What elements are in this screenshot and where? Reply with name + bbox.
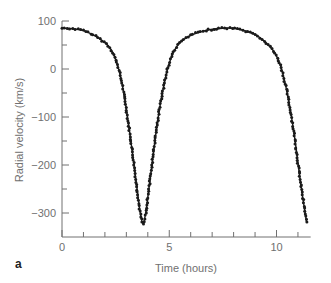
- data-point: [304, 215, 307, 218]
- data-point: [135, 185, 138, 188]
- data-point: [153, 139, 156, 142]
- data-point: [168, 61, 171, 64]
- y-axis-label: Radial velocity (km/s): [13, 78, 25, 183]
- data-point: [162, 87, 165, 90]
- data-point: [99, 37, 102, 40]
- data-point: [157, 116, 160, 119]
- data-point: [116, 66, 119, 69]
- data-point: [159, 106, 162, 109]
- data-point: [91, 33, 94, 36]
- data-point: [140, 217, 143, 220]
- y-tick-label: 100: [38, 15, 56, 27]
- radial-velocity-chart: 1000−100−200−3000510 Time (hours) Radial…: [0, 0, 331, 283]
- data-point: [282, 71, 285, 74]
- data-point: [152, 148, 155, 151]
- data-point: [217, 27, 220, 30]
- data-point: [105, 42, 108, 45]
- data-point: [291, 121, 294, 124]
- data-point: [187, 36, 190, 39]
- data-point: [150, 169, 153, 172]
- data-point: [165, 73, 168, 76]
- data-point: [305, 218, 308, 221]
- data-point: [194, 31, 197, 34]
- data-point: [233, 27, 236, 30]
- data-point: [114, 56, 117, 59]
- data-point: [296, 156, 299, 159]
- data-point: [290, 113, 293, 116]
- data-points: [61, 26, 309, 226]
- data-point: [276, 57, 279, 60]
- data-point: [282, 77, 285, 80]
- data-point: [121, 84, 124, 87]
- data-point: [63, 26, 66, 29]
- data-point: [139, 210, 142, 213]
- data-point: [79, 28, 82, 31]
- data-point: [202, 30, 205, 33]
- data-point: [168, 64, 171, 67]
- data-point: [129, 136, 132, 139]
- data-curve: [62, 28, 307, 224]
- data-point: [123, 97, 126, 100]
- data-point: [147, 192, 150, 195]
- data-point: [294, 142, 297, 145]
- data-point: [134, 172, 137, 175]
- data-point: [182, 38, 185, 41]
- data-point: [161, 95, 164, 98]
- data-point: [286, 92, 289, 95]
- data-point: [302, 198, 305, 201]
- data-point: [133, 175, 136, 178]
- data-point: [147, 188, 150, 191]
- data-point: [238, 28, 241, 31]
- data-point: [137, 199, 140, 202]
- data-point: [159, 102, 162, 105]
- data-point: [124, 103, 127, 106]
- data-point: [296, 153, 299, 156]
- data-point: [191, 33, 194, 36]
- data-point: [148, 177, 151, 180]
- data-point: [288, 106, 291, 109]
- data-point: [290, 116, 293, 119]
- y-tick-label: 0: [50, 63, 56, 75]
- data-point: [299, 185, 302, 188]
- data-point: [280, 66, 283, 69]
- data-point: [298, 175, 301, 178]
- data-point: [199, 30, 202, 33]
- data-point: [121, 88, 124, 91]
- data-point: [100, 40, 103, 43]
- data-point: [207, 28, 210, 31]
- data-point: [175, 46, 178, 49]
- data-point: [119, 74, 122, 77]
- data-point: [305, 221, 308, 224]
- data-point: [210, 29, 213, 32]
- data-point: [143, 220, 146, 223]
- data-point: [149, 182, 152, 185]
- data-point: [127, 122, 130, 125]
- data-point: [74, 28, 77, 31]
- data-point: [256, 35, 259, 38]
- data-point: [287, 101, 290, 104]
- data-point: [145, 207, 148, 210]
- data-point: [279, 63, 282, 66]
- data-point: [152, 153, 155, 156]
- data-point: [300, 188, 303, 191]
- data-point: [301, 191, 304, 194]
- data-point: [136, 190, 139, 193]
- data-point: [143, 217, 146, 220]
- data-point: [116, 63, 119, 66]
- data-point: [151, 161, 154, 164]
- data-point: [225, 27, 228, 30]
- data-point: [303, 206, 306, 209]
- data-point: [246, 30, 249, 33]
- data-point: [68, 28, 71, 31]
- data-point: [158, 113, 161, 116]
- data-point: [119, 71, 122, 74]
- data-point: [163, 81, 166, 84]
- data-point: [157, 119, 160, 122]
- data-point: [173, 49, 176, 52]
- data-point: [285, 84, 288, 87]
- x-axis-label: Time (hours): [155, 262, 217, 274]
- data-point: [134, 178, 137, 181]
- data-point: [302, 201, 305, 204]
- data-point: [86, 30, 89, 33]
- data-point: [286, 90, 289, 93]
